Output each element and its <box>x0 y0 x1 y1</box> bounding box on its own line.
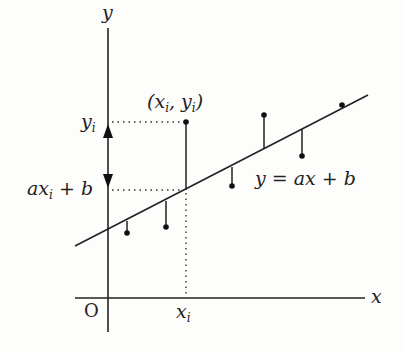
data-point <box>339 102 345 108</box>
origin-label: O <box>84 300 99 321</box>
axib-label: axi + b <box>27 177 93 202</box>
data-point <box>163 224 169 230</box>
data-point <box>229 183 235 189</box>
arrow-down-icon <box>103 174 113 188</box>
point-label: (xi, yi) <box>147 90 203 115</box>
data-point <box>299 153 305 159</box>
data-point <box>261 112 267 118</box>
yi-label: yi <box>80 110 96 135</box>
x-axis-label: x <box>371 285 382 307</box>
line-equation-label: y = ax + b <box>254 167 356 189</box>
data-point-highlighted <box>183 119 189 125</box>
xi-label: xi <box>176 300 191 325</box>
arrow-up-icon <box>103 124 113 138</box>
y-axis-label: y <box>101 1 113 23</box>
regression-diagram: y x O yi axi + b (xi, yi) y = ax + b xi <box>0 0 406 352</box>
data-point <box>124 230 130 236</box>
